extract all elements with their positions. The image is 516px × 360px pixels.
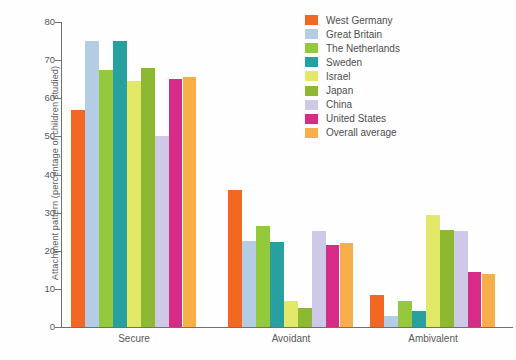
legend-item: West Germany: [305, 13, 400, 27]
y-tick-label: 80: [11, 16, 55, 27]
legend-label: The Netherlands: [326, 43, 400, 54]
bar-chart-figure: Attachment pattern (percentage of childr…: [0, 0, 516, 360]
y-tick: 60: [0, 98, 55, 99]
bar: [169, 79, 183, 327]
y-tick-label: 0: [11, 321, 55, 332]
bar: [113, 41, 127, 327]
legend-item: Sweden: [305, 55, 400, 69]
y-tick-label: 50: [11, 130, 55, 141]
legend-swatch: [305, 128, 318, 138]
y-tick: 70: [0, 60, 55, 61]
y-tick: 10: [0, 289, 55, 290]
y-tick: 40: [0, 175, 55, 176]
y-tick-label: 70: [11, 54, 55, 65]
bar: [312, 231, 326, 327]
bar: [71, 110, 85, 327]
chart-legend: West GermanyGreat BritainThe Netherlands…: [305, 13, 400, 140]
y-tick-mark: [55, 22, 61, 23]
legend-label: Overall average: [326, 127, 397, 138]
y-tick: 20: [0, 251, 55, 252]
y-tick-mark: [55, 98, 61, 99]
x-tick-label: Secure: [46, 333, 222, 344]
y-tick-label: 40: [11, 169, 55, 180]
legend-item: Overall average: [305, 126, 400, 140]
legend-swatch: [305, 15, 318, 25]
bar: [284, 301, 298, 327]
bar: [183, 77, 197, 327]
y-tick: 80: [0, 22, 55, 23]
bar: [412, 311, 426, 327]
bar: [426, 215, 440, 327]
legend-label: Great Britain: [326, 29, 382, 40]
y-tick-mark: [55, 60, 61, 61]
legend-swatch: [305, 57, 318, 67]
y-tick-label: 20: [11, 245, 55, 256]
x-axis-line: [61, 327, 513, 328]
legend-swatch: [305, 71, 318, 81]
bar: [326, 245, 340, 327]
bar: [340, 243, 354, 327]
legend-item: United States: [305, 112, 400, 126]
legend-swatch: [305, 29, 318, 39]
y-tick: 50: [0, 136, 55, 137]
y-tick-label: 10: [11, 283, 55, 294]
bar: [127, 81, 141, 327]
bar: [270, 242, 284, 327]
legend-label: Japan: [326, 85, 353, 96]
bar: [85, 41, 99, 327]
legend-label: West Germany: [326, 15, 393, 26]
legend-item: Japan: [305, 83, 400, 97]
bar: [440, 230, 454, 327]
bar: [454, 231, 468, 327]
legend-swatch: [305, 100, 318, 110]
y-tick-mark: [55, 136, 61, 137]
legend-label: China: [326, 99, 352, 110]
y-tick-mark: [55, 175, 61, 176]
legend-label: United States: [326, 113, 386, 124]
y-tick-label: 30: [11, 207, 55, 218]
bar: [384, 316, 398, 327]
x-tick-label: Ambivalent: [345, 333, 516, 344]
bar: [482, 274, 496, 327]
legend-item: The Netherlands: [305, 41, 400, 55]
bar: [155, 136, 169, 327]
plot-area: [62, 22, 513, 327]
bar: [398, 301, 412, 327]
bar: [141, 68, 155, 327]
bar-group: [71, 22, 197, 327]
legend-swatch: [305, 114, 318, 124]
y-tick-mark: [55, 289, 61, 290]
bar: [468, 272, 482, 327]
y-tick: 30: [0, 213, 55, 214]
bar: [370, 295, 384, 327]
bar: [256, 226, 270, 327]
legend-label: Sweden: [326, 57, 362, 68]
legend-label: Israel: [326, 71, 350, 82]
bar: [99, 70, 113, 327]
bar: [228, 190, 242, 327]
y-tick: 0: [0, 327, 55, 328]
y-tick-label: 60: [11, 92, 55, 103]
page-bleed-through: [190, 0, 195, 18]
legend-swatch: [305, 86, 318, 96]
bar: [242, 241, 256, 327]
y-tick-mark: [55, 251, 61, 252]
bar: [298, 308, 312, 327]
y-tick-mark: [55, 213, 61, 214]
legend-swatch: [305, 43, 318, 53]
legend-item: Israel: [305, 69, 400, 83]
legend-item: China: [305, 98, 400, 112]
legend-item: Great Britain: [305, 27, 400, 41]
